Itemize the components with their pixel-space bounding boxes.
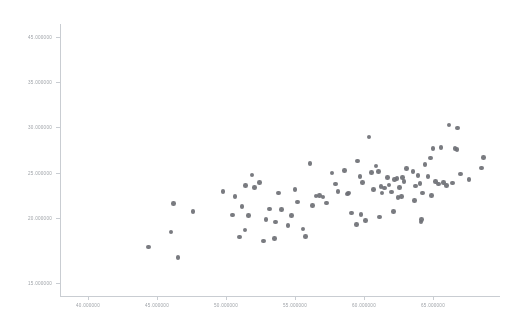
- scatter-point: [221, 189, 226, 194]
- scatter-point: [359, 212, 364, 217]
- scatter-point: [333, 182, 338, 187]
- scatter-point: [399, 194, 404, 199]
- scatter-point: [382, 186, 387, 191]
- scatter-point: [301, 227, 306, 232]
- scatter-point: [336, 189, 341, 194]
- scatter-point: [286, 223, 291, 228]
- x-axis-tick-label: 65.000000: [401, 303, 465, 308]
- scatter-point: [289, 213, 294, 218]
- y-axis-tick-label: 15.000000: [8, 281, 52, 286]
- scatter-point: [176, 255, 181, 260]
- x-axis-tick: [157, 296, 158, 300]
- scatter-point: [349, 211, 354, 216]
- scatter-point: [324, 201, 329, 206]
- scatter-point: [395, 176, 400, 181]
- scatter-point: [237, 235, 242, 240]
- scatter-point: [428, 156, 433, 161]
- scatter-point: [367, 135, 372, 140]
- scatter-point: [397, 185, 402, 190]
- scatter-point: [419, 220, 424, 225]
- scatter-point: [250, 173, 255, 178]
- x-axis-line: [60, 296, 500, 297]
- scatter-point: [321, 195, 326, 200]
- scatter-point: [376, 169, 381, 174]
- scatter-point: [257, 180, 262, 185]
- scatter-point: [411, 169, 416, 174]
- scatter-point: [363, 218, 368, 223]
- scatter-point: [420, 191, 425, 196]
- y-axis-tick-label: 45.000000: [8, 35, 52, 40]
- x-axis-tick-label: 60.000000: [332, 303, 396, 308]
- scatter-point: [264, 217, 269, 222]
- scatter-point: [481, 155, 486, 160]
- scatter-point: [243, 228, 248, 233]
- scatter-point: [330, 171, 335, 176]
- scatter-point: [303, 234, 308, 239]
- scatter-point: [308, 161, 313, 166]
- scatter-point: [412, 198, 417, 203]
- scatter-point: [295, 200, 300, 205]
- scatter-point: [346, 191, 351, 196]
- scatter-point: [360, 180, 365, 185]
- x-axis-tick-label: 40.000000: [56, 303, 120, 308]
- scatter-point: [169, 230, 174, 235]
- scatter-point: [391, 209, 396, 214]
- scatter-point: [342, 168, 347, 173]
- scatter-point: [273, 220, 278, 225]
- scatter-point: [387, 183, 392, 188]
- plot-area: [60, 24, 500, 296]
- scatter-point: [371, 187, 376, 192]
- scatter-point: [404, 166, 409, 171]
- x-axis-tick: [295, 296, 296, 300]
- scatter-point: [377, 215, 382, 220]
- scatter-point: [429, 193, 434, 198]
- scatter-point: [374, 164, 379, 169]
- scatter-point: [310, 203, 315, 208]
- scatter-point: [354, 222, 359, 227]
- x-axis-tick: [433, 296, 434, 300]
- x-axis-tick: [364, 296, 365, 300]
- scatter-point: [439, 145, 444, 150]
- scatter-point: [444, 183, 449, 188]
- scatter-point: [276, 191, 281, 196]
- scatter-point: [369, 170, 374, 175]
- scatter-point: [233, 194, 238, 199]
- scatter-point: [243, 183, 248, 188]
- y-axis-tick-label: 35.000000: [8, 80, 52, 85]
- scatter-point: [246, 213, 251, 218]
- scatter-point: [416, 173, 421, 178]
- y-axis-tick-label: 30.000000: [8, 125, 52, 130]
- scatter-point: [402, 179, 407, 184]
- scatter-point: [267, 207, 272, 212]
- scatter-point: [450, 181, 455, 186]
- scatter-point: [230, 213, 235, 218]
- y-axis-tick-label: 20.000000: [8, 216, 52, 221]
- scatter-point: [418, 181, 423, 186]
- scatter-point: [436, 182, 441, 187]
- scatter-point: [389, 190, 394, 195]
- y-axis-tick-label: 25.000000: [8, 171, 52, 176]
- scatter-point: [191, 209, 196, 214]
- scatter-point: [252, 185, 257, 190]
- x-axis-tick-label: 55.000000: [263, 303, 327, 308]
- x-axis-tick-label: 45.000000: [125, 303, 189, 308]
- scatter-chart: 45.00000035.00000030.00000025.00000020.0…: [0, 0, 519, 331]
- x-axis-tick-label: 50.000000: [194, 303, 258, 308]
- scatter-point: [272, 236, 277, 241]
- scatter-point: [279, 207, 284, 212]
- scatter-point: [455, 147, 460, 152]
- scatter-point: [171, 201, 176, 206]
- scatter-point: [458, 172, 463, 177]
- scatter-point: [426, 174, 431, 179]
- x-axis-tick: [88, 296, 89, 300]
- scatter-point: [467, 177, 472, 182]
- scatter-point: [447, 123, 452, 128]
- scatter-point: [431, 146, 436, 151]
- scatter-point: [240, 204, 245, 209]
- scatter-point: [380, 191, 385, 196]
- x-axis-tick: [226, 296, 227, 300]
- scatter-point: [355, 159, 360, 164]
- scatter-point: [146, 245, 151, 250]
- scatter-point: [293, 187, 298, 192]
- scatter-point: [423, 162, 428, 167]
